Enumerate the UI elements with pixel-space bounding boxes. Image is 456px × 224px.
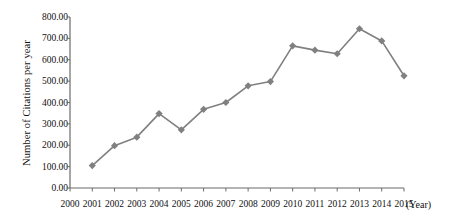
- x-axis-tick-labels: 2000200120022003200420052006200720082009…: [0, 0, 456, 224]
- citations-per-year-line-chart: Number of Citations per year 800.00700.0…: [0, 0, 456, 224]
- x-axis-title: (Year): [406, 199, 431, 210]
